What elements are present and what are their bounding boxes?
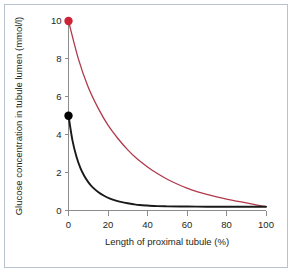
x-tick-label: 60 [182, 219, 193, 230]
x-tick-label: 20 [103, 219, 114, 230]
x-tick-label: 80 [221, 219, 232, 230]
y-tick-label: 4 [56, 129, 61, 140]
y-tick-label: 6 [56, 91, 61, 102]
x-tick-label: 0 [66, 219, 71, 230]
data-point-marker-black [64, 112, 72, 120]
x-axis-title: Length of proximal tubule (%) [105, 236, 229, 247]
y-tick-label: 0 [56, 205, 61, 216]
y-tick-label: 8 [56, 53, 61, 64]
y-axis-title: Glucose concentration in tubule lumen (m… [13, 17, 24, 216]
series-line-normal-glucose [69, 116, 267, 207]
y-tick-label: 2 [56, 167, 61, 178]
x-axis-ticks: 020406080100 [66, 211, 274, 230]
x-tick-label: 40 [142, 219, 153, 230]
figure-container: 0246810 020406080100 Length of proximal … [0, 0, 292, 272]
chart-plot: 0246810 020406080100 Length of proximal … [0, 0, 292, 272]
series-line-high-glucose [69, 21, 267, 207]
y-tick-label: 10 [51, 15, 62, 26]
x-tick-label: 100 [258, 219, 274, 230]
data-point-marker-red [64, 17, 72, 25]
